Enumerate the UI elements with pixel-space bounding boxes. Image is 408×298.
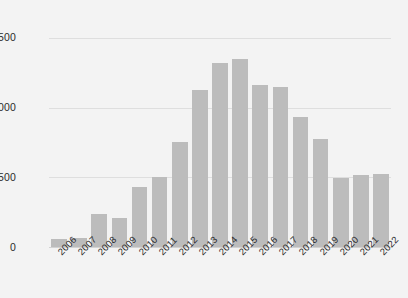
y-tick-label: 1,500	[0, 32, 16, 43]
y-tick-label: 1,000	[0, 102, 16, 113]
x-axis-tick-labels: 2006200720082009201020112012201320142015…	[49, 250, 391, 298]
bar[interactable]	[293, 117, 309, 247]
y-tick-label: 0	[0, 242, 16, 253]
bar[interactable]	[252, 85, 268, 247]
bar[interactable]	[232, 59, 248, 247]
bar[interactable]	[313, 139, 329, 247]
bar-chart-figure: 05001,0001,500 2006200720082009201020112…	[0, 0, 408, 298]
bar[interactable]	[192, 90, 208, 247]
bars-group	[49, 24, 391, 247]
y-tick-label: 500	[0, 172, 16, 183]
bar[interactable]	[273, 87, 289, 247]
bar[interactable]	[172, 142, 188, 247]
bar[interactable]	[212, 63, 228, 247]
